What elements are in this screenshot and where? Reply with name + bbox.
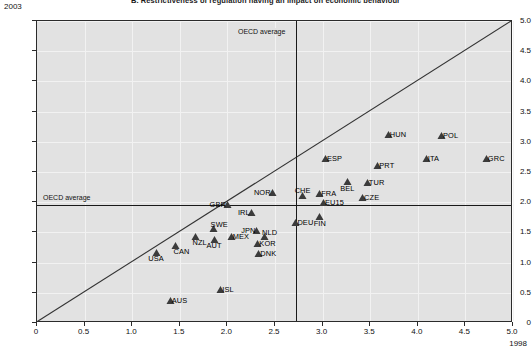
data-point[interactable]: GRC	[482, 154, 491, 163]
data-point-label: FIN	[314, 218, 326, 227]
data-point-label: NZL	[193, 237, 207, 246]
x-tick	[322, 322, 323, 326]
y-tick	[32, 50, 36, 51]
oecd-average-label-vertical: OECD average	[236, 28, 287, 35]
y-tick	[32, 141, 36, 142]
y-tick	[32, 262, 36, 263]
y-tick	[32, 171, 36, 172]
x-tick	[179, 322, 180, 326]
data-point[interactable]: IRL	[247, 208, 256, 217]
y-tick-label: 4.0	[503, 76, 531, 85]
data-point[interactable]: ESP	[321, 154, 330, 163]
x-tick	[369, 322, 370, 326]
x-axis-caption: 1998	[509, 339, 527, 348]
y-tick-label: 2.5	[503, 167, 531, 176]
data-point-label: ITA	[428, 154, 439, 163]
data-point[interactable]: JPN	[252, 226, 261, 235]
data-point-label: TUR	[369, 178, 385, 187]
data-point-label: ISL	[222, 284, 233, 293]
data-point-label: IRL	[238, 208, 250, 217]
data-point[interactable]: TUR	[363, 178, 372, 187]
data-point-label: BEL	[340, 183, 354, 192]
data-point[interactable]: NZL	[191, 232, 200, 241]
data-point-label: USA	[148, 254, 164, 263]
x-tick	[131, 322, 132, 326]
chart-title: B. Restrictiveness of regulation having …	[0, 0, 531, 5]
data-point[interactable]: EU15	[319, 198, 328, 207]
data-point[interactable]: GBR	[223, 200, 232, 209]
x-tick-label: 0	[16, 327, 56, 336]
data-point-label: PRT	[379, 161, 394, 170]
data-point[interactable]: SWE	[209, 224, 218, 233]
data-point-label: NLD	[262, 227, 277, 236]
x-tick	[36, 322, 37, 326]
data-point[interactable]: AUT	[210, 235, 219, 244]
data-point-label: CZE	[364, 193, 379, 202]
y-tick-label: 1.0	[503, 257, 531, 266]
data-point[interactable]: FRA	[315, 189, 324, 198]
plot-area: OECD average OECD average AUSISLUSACANAU…	[36, 20, 512, 322]
x-tick-label: 1.5	[159, 327, 199, 336]
oecd-average-vertical-line	[296, 21, 297, 321]
data-point-label: CHE	[295, 185, 311, 194]
data-point-label: GBR	[210, 200, 226, 209]
data-point[interactable]: DNK	[254, 249, 263, 258]
x-tick-label: 4.0	[397, 327, 437, 336]
data-point[interactable]: CZE	[358, 193, 367, 202]
x-tick	[274, 322, 275, 326]
data-point[interactable]: BEL	[343, 177, 352, 186]
data-point[interactable]: HUN	[384, 130, 393, 139]
data-point-label: SWE	[211, 219, 228, 228]
y-tick	[32, 201, 36, 202]
x-tick-label: 1.0	[111, 327, 151, 336]
diagonal-reference-line	[37, 21, 511, 322]
y-tick-label: 4.5	[503, 46, 531, 55]
y-tick-label: 2.0	[503, 197, 531, 206]
data-point-label: DNK	[260, 249, 276, 258]
x-tick-label: 3.0	[302, 327, 342, 336]
y-tick	[32, 111, 36, 112]
data-point[interactable]: MEX	[227, 232, 236, 241]
data-point[interactable]: FIN	[315, 212, 324, 221]
data-point[interactable]: POL	[437, 131, 446, 140]
data-point[interactable]: USA	[152, 248, 161, 257]
y-tick-label: 5.0	[503, 16, 531, 25]
data-point[interactable]: DEU	[291, 218, 300, 227]
data-point[interactable]: CAN	[171, 241, 180, 250]
data-point-label: JPN	[241, 226, 255, 235]
data-point[interactable]: NOR	[268, 188, 277, 197]
data-point-label: NOR	[254, 188, 271, 197]
y-tick-label: 0.5	[503, 287, 531, 296]
x-tick-label: 2.0	[206, 327, 246, 336]
data-point-label: CAN	[173, 246, 189, 255]
y-tick	[32, 20, 36, 21]
x-tick	[417, 322, 418, 326]
data-point-label: AUT	[207, 241, 222, 250]
data-point[interactable]: ISL	[216, 285, 225, 294]
data-point-label: ESP	[327, 154, 342, 163]
x-tick-label: 0.5	[64, 327, 104, 336]
data-point-label: DEU	[297, 217, 313, 226]
data-point[interactable]: PRT	[373, 161, 382, 170]
x-tick-label: 2.5	[254, 327, 294, 336]
x-tick-label: 4.5	[444, 327, 484, 336]
data-point-label: AUS	[172, 296, 188, 305]
x-tick	[464, 322, 465, 326]
x-tick	[226, 322, 227, 326]
oecd-average-label-horizontal: OECD average	[41, 194, 92, 201]
x-tick-label: 3.5	[349, 327, 389, 336]
y-tick	[32, 292, 36, 293]
data-point-label: POL	[443, 131, 458, 140]
y-tick	[32, 80, 36, 81]
y-tick	[32, 231, 36, 232]
y-tick-label: 1.5	[503, 227, 531, 236]
y-tick-label: 3.5	[503, 106, 531, 115]
data-point-label: EU15	[325, 198, 344, 207]
data-point[interactable]: ITA	[422, 154, 431, 163]
y-axis-caption: 2003	[4, 2, 22, 11]
data-point-label: GRC	[488, 154, 505, 163]
data-point[interactable]: AUS	[166, 296, 175, 305]
data-point-label: FRA	[321, 189, 336, 198]
data-point[interactable]: CHE	[298, 191, 307, 200]
